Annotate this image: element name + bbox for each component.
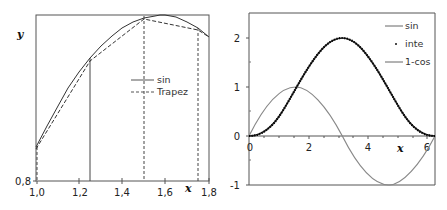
left-x-tick-label: 1,8 — [201, 187, 217, 198]
left-trapezoid-verticals — [37, 16, 198, 181]
left-x-tick-label: 1,4 — [114, 187, 130, 198]
left-y-tick-label: 0,8 — [15, 176, 31, 187]
legend-label-one-minus-cos: 1-cos — [405, 56, 431, 67]
left-y-axis-title: y — [16, 28, 25, 41]
right-y-tick-label: 1 — [234, 82, 240, 93]
left-trapez-curve — [36, 19, 209, 149]
right-chart: 2 1 0 -1 0 2 4 6 x — [230, 13, 435, 191]
right-y-tick-label: -1 — [230, 180, 240, 191]
left-legend: sin Trapez — [131, 74, 188, 97]
left-x-axis-title: x — [184, 182, 192, 195]
right-x-tick-label: 2 — [306, 142, 312, 153]
left-x-tick-label: 1,6 — [157, 187, 173, 198]
right-x-tick-label: 0 — [247, 142, 253, 153]
legend-label-sin: sin — [405, 20, 419, 31]
right-x-tick-label: 4 — [365, 142, 371, 153]
left-chart: 0,8 1,0 1,2 1,4 1,6 1,8 y x sin Trapez — [15, 15, 217, 198]
legend-label-trapez: Trapez — [156, 86, 188, 97]
legend-label-sin: sin — [157, 74, 171, 85]
legend-label-inte: inte — [405, 38, 423, 49]
left-x-tick-label: 1,0 — [29, 187, 45, 198]
right-inte-markers — [249, 38, 435, 136]
right-y-tick-label: 2 — [234, 33, 240, 44]
right-x-axis-title: x — [396, 142, 404, 155]
figure-canvas: 0,8 1,0 1,2 1,4 1,6 1,8 y x sin Trapez — [0, 0, 447, 210]
left-sin-curve — [36, 15, 209, 147]
legend-swatch-inte — [395, 43, 397, 45]
right-one-minus-cos-curve — [249, 38, 435, 136]
right-legend: sin inte 1-cos — [385, 20, 431, 67]
right-y-tick-label: 0 — [234, 131, 240, 142]
left-x-tick-label: 1,2 — [72, 187, 88, 198]
